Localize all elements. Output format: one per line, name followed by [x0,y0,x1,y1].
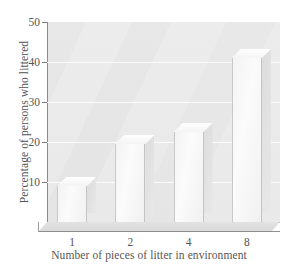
x-tick-label: 1 [69,236,75,248]
floor-front-edge [38,231,280,232]
y-tick-mark [42,102,47,103]
y-tick-mark [42,22,47,23]
bar [174,132,204,222]
bar-front-face [174,132,204,222]
y-tick-label: 40 [29,56,41,68]
y-tick-mark [42,62,47,63]
y-axis-line [47,22,48,222]
y-tick-label: 30 [29,96,41,108]
x-tick-label: 2 [128,236,134,248]
bar-front-face [57,186,87,222]
bar [57,186,87,222]
bar-chart: Percentage of persons who littered 10203… [0,0,298,268]
plot-area: 1020304050 1248 [47,22,280,222]
bar-side-face [204,123,213,213]
bar-front-face [232,58,262,222]
floor-left-edge [38,222,49,232]
x-tick-label: 8 [244,236,250,248]
x-tick-label: 4 [186,236,192,248]
y-axis-title: Percentage of persons who littered [18,22,30,222]
bar-front-face [115,144,145,222]
y-tick-label: 50 [29,16,41,28]
bar [232,58,262,222]
y-tick-mark [42,182,47,183]
y-tick-label: 20 [29,136,41,148]
y-tick-mark [42,142,47,143]
bar-side-face [145,135,154,213]
bar [115,144,145,222]
bar-side-face [262,49,271,213]
y-tick-label: 10 [29,176,41,188]
x-axis-title: Number of pieces of litter in environmen… [0,249,298,261]
